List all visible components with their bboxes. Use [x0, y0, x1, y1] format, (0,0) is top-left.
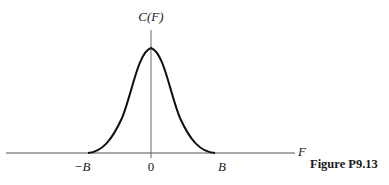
tick-label-neg-b: −B — [74, 159, 91, 174]
y-axis-label: C(F) — [138, 9, 163, 24]
figure-caption: Figure P9.13 — [310, 157, 378, 171]
tick-label-zero: 0 — [148, 159, 155, 174]
figure-canvas: C(F) F −B 0 B Figure P9.13 — [0, 0, 389, 185]
tick-label-b: B — [218, 159, 226, 174]
x-axis-label: F — [297, 144, 307, 159]
